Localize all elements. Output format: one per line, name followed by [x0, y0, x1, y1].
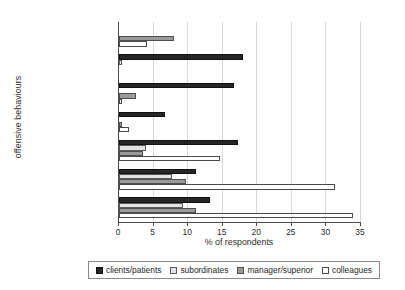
bar-group [119, 83, 361, 104]
bar-group [119, 169, 361, 190]
bar-colleagues [119, 156, 220, 161]
y-axis-title: offensive behaviours [13, 47, 23, 187]
bar-group [119, 140, 361, 161]
legend-swatch-colleagues [322, 267, 329, 274]
bar-colleagues [119, 41, 147, 46]
bar-colleagues [119, 184, 335, 189]
x-axis-tick [291, 222, 292, 226]
legend-item: subordinates [170, 265, 228, 275]
x-axis-title: % of respondents [118, 237, 360, 247]
x-axis-tick-label: 30 [321, 227, 330, 237]
bar-group [119, 112, 361, 133]
x-axis-tick [325, 222, 326, 226]
legend-item: colleagues [322, 265, 372, 275]
chart-legend: clients/patientssubordinatesmanager/supe… [88, 261, 380, 279]
bar-clients-patients [119, 83, 234, 88]
x-axis-tick [222, 222, 223, 226]
bar-group [119, 26, 361, 47]
legend-item: manager/superior [237, 265, 313, 275]
x-axis-tick-label: 25 [286, 227, 295, 237]
chart-title-clipped [0, 0, 405, 6]
legend-swatch-subordinates [170, 267, 177, 274]
x-axis-tick [153, 222, 154, 226]
bar-colleagues [119, 99, 122, 104]
plot-area: 05101520253035 [118, 22, 360, 222]
x-axis-tick-label: 0 [116, 227, 121, 237]
bar-chart: offensive behaviours % of respondents 05… [0, 0, 405, 290]
x-axis-tick-label: 15 [217, 227, 226, 237]
x-axis-tick [256, 222, 257, 226]
legend-item-label: manager/superior [247, 265, 313, 275]
x-axis-tick-label: 35 [355, 227, 364, 237]
x-axis-tick [118, 222, 119, 226]
x-axis-line [118, 222, 360, 223]
x-axis-tick-label: 20 [252, 227, 261, 237]
legend-item-label: subordinates [180, 265, 228, 275]
legend-swatch-clients [96, 267, 103, 274]
x-axis-tick-label: 5 [150, 227, 155, 237]
bar-group [119, 197, 361, 218]
x-axis-tick [187, 222, 188, 226]
bar-clients-patients [119, 54, 243, 59]
legend-swatch-manager [237, 267, 244, 274]
bar-group [119, 54, 361, 75]
x-axis-tick [360, 222, 361, 226]
legend-item-label: colleagues [332, 265, 372, 275]
bar-colleagues [119, 213, 353, 218]
bar-colleagues [119, 127, 129, 132]
legend-item-label: clients/patients [106, 265, 161, 275]
legend-item: clients/patients [96, 265, 161, 275]
x-axis-tick-label: 10 [182, 227, 191, 237]
bar-subordinates [119, 60, 122, 65]
bar-clients-patients [119, 112, 165, 117]
